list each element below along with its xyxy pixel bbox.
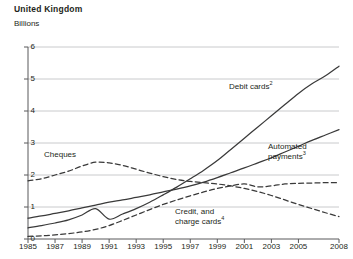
x-axis-tick-label: 2008: [319, 243, 353, 251]
y-axis-tick-label: 2: [21, 171, 35, 179]
y-axis-tick-label: 6: [21, 43, 35, 51]
series-label-text: Credit, and: [175, 207, 214, 216]
series-label: Cheques: [44, 150, 76, 160]
y-axis-tick-label: 5: [21, 75, 35, 83]
series-label-footnote: 4: [221, 215, 224, 221]
series-label-footnote: 3: [303, 150, 306, 156]
series-label-text: charge cards: [175, 217, 221, 226]
x-axis-tick-label: 2005: [278, 243, 318, 251]
series-label-text: payments: [268, 152, 303, 161]
series-label: payments3: [268, 152, 306, 162]
series-label-text: Automated: [268, 142, 307, 151]
series-label: Credit, and: [175, 207, 214, 217]
y-axis-tick-label: 1: [21, 203, 35, 211]
y-axis-tick-label: 3: [21, 139, 35, 147]
series-label: charge cards4: [175, 217, 224, 227]
series-label-footnote: 2: [269, 80, 272, 86]
series-label-text: Cheques: [44, 150, 76, 159]
series-label-text: Debit cards: [229, 82, 269, 91]
series-label: Automated: [268, 142, 307, 152]
series-label: Debit cards2: [229, 82, 273, 92]
y-axis-tick-label: 4: [21, 107, 35, 115]
